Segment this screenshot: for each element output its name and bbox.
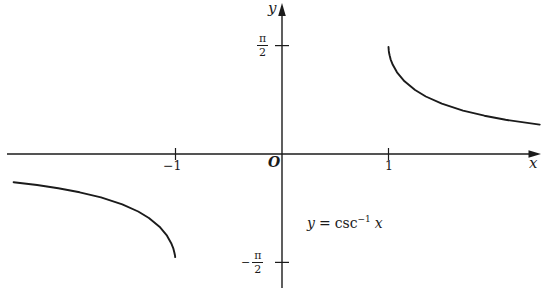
figure-canvas: y x O −1 1 π 2 − π 2 y=csc−1x: [0, 0, 552, 300]
plot-svg: [0, 0, 552, 300]
equation-exponent: −1: [358, 214, 371, 224]
equation-equals-sign: =: [319, 215, 331, 231]
fraction-numerator: π: [252, 250, 263, 263]
neg-pi-over-2-fraction: π 2: [252, 250, 263, 275]
equation-rhs-variable: x: [375, 215, 383, 231]
y-tick-label-neg-pi-over-2: − π 2: [241, 250, 263, 275]
y-tick-label-pos-pi-over-2: π 2: [257, 33, 268, 58]
y-axis-label: y: [268, 1, 276, 16]
y-axis-arrowhead-icon: [278, 3, 286, 16]
fraction-denominator: 2: [259, 46, 266, 58]
pi-over-2-fraction: π 2: [257, 33, 268, 58]
fraction-numerator: π: [257, 33, 268, 46]
curve-left-branch: [14, 182, 176, 257]
curve-right-branch: [389, 47, 540, 125]
equation-function-name: csc: [335, 215, 358, 231]
x-tick-label-neg1: −1: [163, 160, 181, 173]
fraction-denominator: 2: [254, 263, 261, 275]
origin-label: O: [268, 155, 280, 169]
equation-lhs-variable: y: [307, 215, 315, 231]
equation-label: y=csc−1x: [307, 215, 383, 232]
x-axis-label: x: [529, 156, 537, 171]
x-tick-label-pos1: 1: [385, 160, 393, 173]
minus-sign: −: [241, 257, 250, 268]
